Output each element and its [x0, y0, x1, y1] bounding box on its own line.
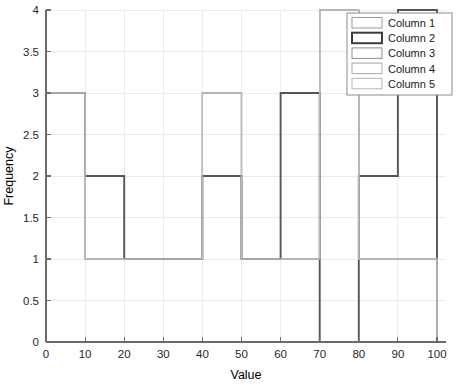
legend-label: Column 2 [388, 32, 435, 44]
legend-label: Column 1 [388, 17, 435, 29]
x-tick-label: 40 [196, 348, 209, 360]
y-tick-label: 2.5 [23, 129, 39, 141]
legend-swatch [352, 48, 382, 59]
legend-label: Column 5 [388, 78, 435, 90]
x-tick-label: 90 [392, 348, 405, 360]
x-tick-label: 0 [43, 348, 49, 360]
x-tick-label: 30 [157, 348, 170, 360]
x-tick-labels: 0102030405060708090100 [43, 348, 447, 360]
x-tick-label: 10 [79, 348, 92, 360]
x-axis-title: Value [230, 368, 261, 382]
chart-legend[interactable]: Column 1Column 2Column 3Column 4Column 5 [347, 13, 452, 95]
y-axis-title: Frequency [2, 146, 16, 206]
y-tick-labels: 00.511.522.533.54 [23, 4, 40, 348]
x-tick-label: 70 [313, 348, 326, 360]
y-tick-label: 1.5 [23, 212, 39, 224]
histogram-figure: 0102030405060708090100 00.511.522.533.54… [0, 0, 460, 385]
x-tick-label: 100 [427, 348, 446, 360]
chart-canvas: 0102030405060708090100 00.511.522.533.54… [0, 0, 460, 385]
legend-swatch [352, 63, 382, 74]
x-tick-label: 50 [235, 348, 248, 360]
legend-swatch [352, 18, 382, 29]
y-tick-label: 2 [33, 170, 39, 182]
legend-label: Column 4 [388, 63, 435, 75]
x-tick-label: 60 [274, 348, 287, 360]
y-tick-label: 4 [33, 4, 40, 16]
y-tick-label: 0.5 [23, 295, 39, 307]
x-tick-label: 80 [352, 348, 365, 360]
y-tick-label: 3.5 [23, 46, 39, 58]
y-tick-label: 3 [33, 87, 39, 99]
y-tick-label: 1 [33, 253, 39, 265]
legend-label: Column 3 [388, 47, 435, 59]
legend-swatch [352, 78, 382, 89]
x-tick-label: 20 [118, 348, 131, 360]
x-tick-marks [46, 337, 437, 342]
legend-swatch [352, 33, 382, 44]
y-tick-label: 0 [33, 336, 39, 348]
